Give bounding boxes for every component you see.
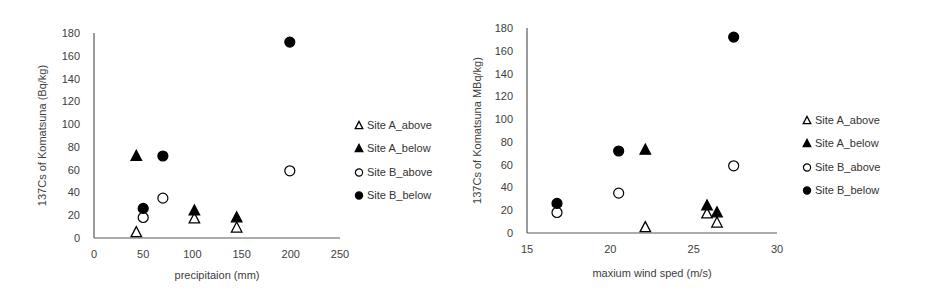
data-point-filled-circle bbox=[552, 198, 562, 208]
open-triangle-icon bbox=[802, 115, 812, 125]
data-point-filled-circle bbox=[614, 146, 624, 156]
data-point-open-circle bbox=[552, 208, 562, 218]
y-tick-label: 40 bbox=[501, 181, 513, 193]
data-point-open-circle bbox=[138, 213, 148, 223]
data-point-filled-circle bbox=[285, 37, 295, 47]
data-point-open-triangle bbox=[231, 222, 242, 232]
y-axis-title: 137Cs of Komatsuna MBq/kg) bbox=[471, 57, 483, 204]
y-tick-label: 180 bbox=[495, 22, 513, 34]
data-point-filled-triangle bbox=[712, 207, 723, 217]
data-point-filled-triangle bbox=[189, 205, 200, 215]
data-point-filled-triangle bbox=[131, 150, 142, 160]
y-tick-label: 40 bbox=[68, 186, 80, 198]
filled-circle-glyph bbox=[803, 187, 810, 194]
legend-label: Site A_below bbox=[367, 142, 431, 154]
open-triangle-icon bbox=[354, 120, 364, 130]
precipitation-legend: Site A_aboveSite A_belowSite B_aboveSite… bbox=[354, 113, 432, 207]
open-triangle-glyph bbox=[355, 121, 363, 128]
y-tick-label: 160 bbox=[495, 45, 513, 57]
x-tick-label: 250 bbox=[331, 248, 349, 260]
y-tick-label: 80 bbox=[501, 136, 513, 148]
data-point-filled-triangle bbox=[702, 200, 713, 210]
y-tick-label: 140 bbox=[495, 68, 513, 80]
legend-label: Site A_above bbox=[367, 119, 432, 131]
x-tick-label: 0 bbox=[91, 248, 97, 260]
legend-label: Site A_above bbox=[815, 114, 880, 126]
x-tick-label: 30 bbox=[771, 243, 783, 255]
wind-speed-legend: Site A_aboveSite A_belowSite B_aboveSite… bbox=[802, 108, 880, 202]
x-tick-label: 20 bbox=[604, 243, 616, 255]
y-tick-label: 180 bbox=[62, 27, 80, 39]
open-circle-icon bbox=[802, 162, 812, 172]
legend-item: Site A_above bbox=[354, 113, 432, 137]
legend-item: Site A_below bbox=[354, 137, 432, 161]
data-point-open-triangle bbox=[131, 227, 142, 237]
legend-label: Site B_below bbox=[815, 184, 879, 196]
y-tick-label: 100 bbox=[495, 113, 513, 125]
legend-item: Site A_above bbox=[802, 108, 880, 132]
data-point-filled-triangle bbox=[231, 212, 242, 222]
y-tick-label: 20 bbox=[501, 204, 513, 216]
legend-label: Site A_below bbox=[815, 137, 879, 149]
y-tick-label: 0 bbox=[74, 232, 80, 244]
x-tick-label: 150 bbox=[232, 248, 250, 260]
open-triangle-glyph bbox=[803, 116, 811, 123]
data-point-filled-circle bbox=[729, 32, 739, 42]
y-tick-label: 80 bbox=[68, 141, 80, 153]
y-tick-label: 140 bbox=[62, 73, 80, 85]
x-tick-label: 50 bbox=[137, 248, 149, 260]
open-circle-icon bbox=[354, 167, 364, 177]
filled-circle-icon bbox=[802, 185, 812, 195]
x-tick-label: 15 bbox=[521, 243, 533, 255]
legend-label: Site B_below bbox=[367, 189, 431, 201]
legend-item: Site B_below bbox=[354, 184, 432, 208]
x-tick-label: 25 bbox=[688, 243, 700, 255]
filled-triangle-icon bbox=[802, 138, 812, 148]
data-point-open-circle bbox=[285, 166, 295, 176]
y-axis-title: 137Cs of Komatsuna (Bq/kg) bbox=[36, 65, 48, 206]
data-point-filled-circle bbox=[158, 151, 168, 161]
data-point-filled-circle bbox=[138, 203, 148, 213]
open-circle-glyph bbox=[803, 164, 810, 171]
y-tick-label: 0 bbox=[507, 227, 513, 239]
y-tick-label: 60 bbox=[68, 164, 80, 176]
data-point-filled-triangle bbox=[640, 144, 651, 154]
y-tick-label: 120 bbox=[62, 95, 80, 107]
filled-circle-icon bbox=[354, 190, 364, 200]
legend-label: Site B_above bbox=[815, 161, 880, 173]
y-tick-label: 60 bbox=[501, 159, 513, 171]
x-tick-label: 200 bbox=[282, 248, 300, 260]
data-point-open-triangle bbox=[640, 222, 651, 232]
x-tick-label: 100 bbox=[183, 248, 201, 260]
legend-label: Site B_above bbox=[367, 166, 432, 178]
legend-item: Site A_below bbox=[802, 132, 880, 156]
y-tick-label: 160 bbox=[62, 50, 80, 62]
legend-item: Site B_above bbox=[802, 155, 880, 179]
data-point-open-circle bbox=[158, 193, 168, 203]
precipitation-chart: 020406080100120140160180050100150200250p… bbox=[0, 0, 460, 291]
data-point-open-triangle bbox=[712, 217, 723, 227]
x-axis-title: maxium wind sped (m/s) bbox=[592, 267, 711, 279]
y-tick-label: 100 bbox=[62, 118, 80, 130]
open-circle-glyph bbox=[355, 169, 362, 176]
filled-triangle-icon bbox=[354, 143, 364, 153]
data-point-open-circle bbox=[729, 161, 739, 171]
legend-item: Site B_above bbox=[354, 160, 432, 184]
filled-triangle-glyph bbox=[803, 140, 811, 147]
filled-triangle-glyph bbox=[355, 145, 363, 152]
y-tick-label: 120 bbox=[495, 90, 513, 102]
wind-speed-chart: 02040608010012014016018015202530maxium w… bbox=[460, 0, 928, 291]
legend-item: Site B_below bbox=[802, 179, 880, 203]
y-tick-label: 20 bbox=[68, 209, 80, 221]
x-axis-title: precipitaion (mm) bbox=[175, 269, 260, 281]
data-point-open-circle bbox=[614, 188, 624, 198]
filled-circle-glyph bbox=[355, 192, 362, 199]
